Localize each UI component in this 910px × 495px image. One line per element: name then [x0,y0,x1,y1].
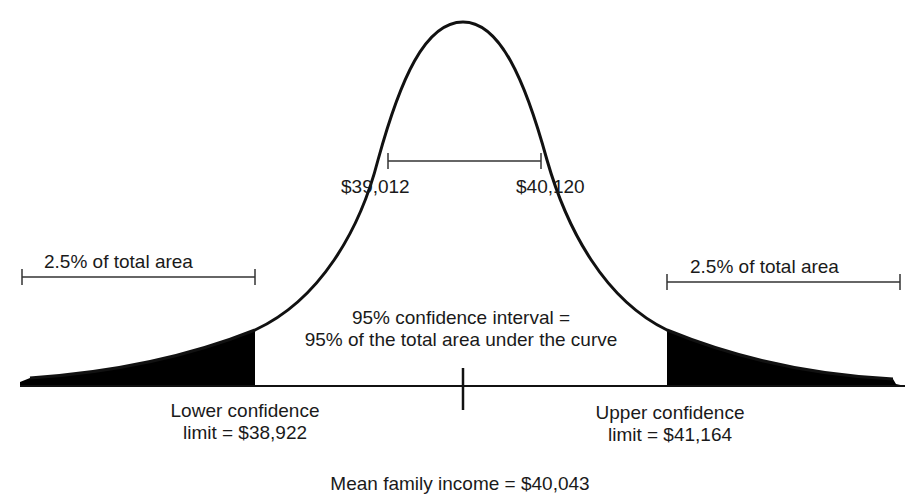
confidence-interval-text: 95% confidence interval = 95% of the tot… [255,307,667,351]
upper-limit-label: Upper confidence limit = $41,164 [555,402,785,446]
center-text-line1: 95% confidence interval = [255,307,667,329]
inner-left-value: $39,012 [341,176,410,198]
upper-limit-line1: Upper confidence [555,402,785,424]
right-tail-label: 2.5% of total area [690,256,839,278]
center-text-line2: 95% of the total area under the curve [255,329,667,351]
mean-income-label: Mean family income = $40,043 [200,473,720,495]
lower-limit-label: Lower confidence limit = $38,922 [130,400,360,444]
lower-limit-line1: Lower confidence [130,400,360,422]
lower-limit-line2: limit = $38,922 [130,422,360,444]
inner-interval-bracket [388,153,541,169]
left-tail-label: 2.5% of total area [44,251,193,273]
left-tail-shading [20,330,255,386]
upper-limit-line2: limit = $41,164 [555,424,785,446]
inner-right-value: $40,120 [516,176,585,198]
